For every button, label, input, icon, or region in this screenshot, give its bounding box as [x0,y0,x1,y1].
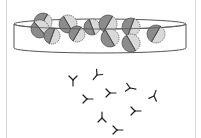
diagram-canvas [0,0,201,138]
antibody-icon [125,83,136,93]
antibody-icon [69,76,77,86]
dish-base-icon [14,48,186,53]
antibody-icon [83,95,93,103]
antibodies-group [69,69,160,134]
cell-icon [119,31,144,56]
antibody-icon [98,112,106,122]
antibody-icon [90,69,103,82]
cells-group [27,10,168,56]
antibody-icon [149,89,160,101]
antibody-icon [131,107,141,115]
cell-icon [144,22,169,47]
antibody-icon [113,126,123,134]
antibody-icon [106,89,116,97]
